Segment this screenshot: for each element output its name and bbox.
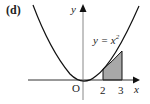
y-axis-arrow-icon bbox=[80, 4, 87, 12]
origin-label: O bbox=[72, 82, 80, 94]
x-axis-label: x bbox=[133, 83, 139, 95]
curve-equation-lhs: y = x bbox=[92, 34, 116, 46]
parabola-curve bbox=[33, 5, 139, 81]
curve-equation: y = x2 bbox=[92, 33, 120, 46]
y-axis-label: y bbox=[70, 3, 76, 15]
figure-label: (d) bbox=[6, 3, 21, 17]
tick-label-2: 2 bbox=[100, 84, 106, 96]
parabola-diagram: (d) y y = x2 O 2 3 x bbox=[0, 0, 150, 104]
tick-label-3: 3 bbox=[118, 84, 124, 96]
curve-equation-exponent: 2 bbox=[116, 33, 120, 41]
